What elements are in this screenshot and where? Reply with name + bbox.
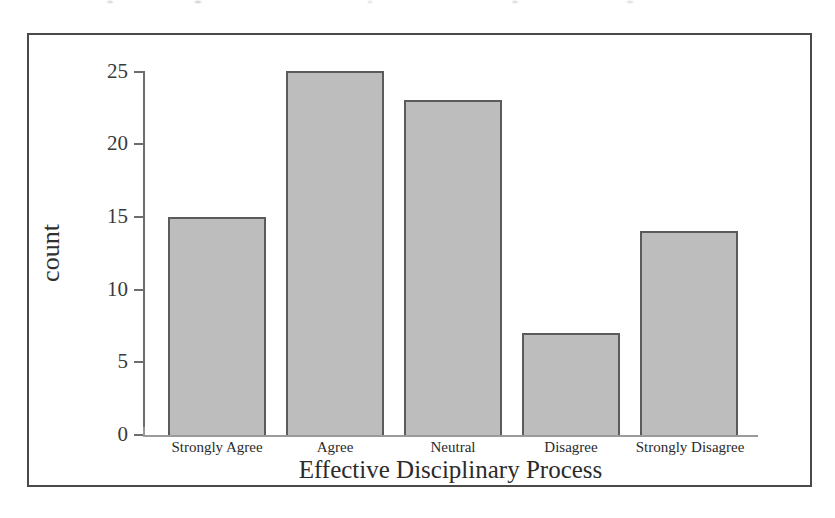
y-tick-10: 10 — [134, 289, 143, 291]
y-tick-label-5: 5 — [118, 349, 129, 374]
bar-strongly-agree[interactable] — [168, 217, 266, 437]
x-axis-line — [143, 435, 758, 437]
y-tick-15: 15 — [134, 216, 143, 218]
chart-screenshot: 0 5 10 15 20 25 count — [0, 0, 835, 518]
y-tick-0: 0 — [134, 434, 143, 436]
y-tick-20: 20 — [134, 143, 143, 145]
y-tick-5: 5 — [134, 361, 143, 363]
plot-area: 0 5 10 15 20 25 count — [29, 35, 810, 485]
y-tick-label-20: 20 — [107, 131, 128, 156]
figure-frame: 0 5 10 15 20 25 count — [27, 33, 812, 487]
scan-artifact — [70, 0, 710, 8]
bar-neutral[interactable] — [404, 100, 502, 437]
bar-agree[interactable] — [286, 71, 384, 437]
bar-disagree[interactable] — [522, 333, 620, 437]
bar-strongly-disagree[interactable] — [640, 231, 738, 437]
y-tick-label-15: 15 — [107, 204, 128, 229]
y-axis-title: count — [36, 224, 66, 282]
y-tick-25: 25 — [134, 71, 143, 73]
x-tick-label-disagree: Disagree — [522, 439, 620, 456]
y-tick-label-0: 0 — [118, 422, 129, 447]
x-tick-label-strongly-agree: Strongly Agree — [168, 439, 266, 456]
x-axis-title: Effective Disciplinary Process — [143, 456, 758, 484]
x-tick-label-agree: Agree — [286, 439, 384, 456]
y-tick-label-25: 25 — [107, 59, 128, 84]
x-tick-label-strongly-disagree: Strongly Disagree — [634, 439, 746, 456]
x-axis-origin-tick — [143, 427, 145, 437]
y-axis-line — [143, 71, 145, 435]
y-tick-label-10: 10 — [107, 277, 128, 302]
x-tick-label-neutral: Neutral — [404, 439, 502, 456]
